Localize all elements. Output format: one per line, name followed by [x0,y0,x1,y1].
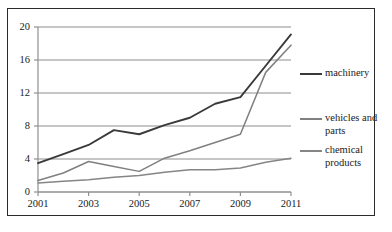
x-axis-ticks [38,192,291,196]
legend-label: chemical products [325,144,392,169]
x-tick-label: 2003 [69,198,109,209]
x-tick-label: 2007 [170,198,210,209]
chart-border: 048121620 200120032005200720092011 machi… [7,8,375,216]
legend-swatch-line [300,118,322,120]
series-line-vehicles-and-parts [38,45,291,180]
y-tick-label: 20 [8,21,30,32]
y-tick-label: 16 [8,54,30,65]
x-tick-label: 2005 [119,198,159,209]
chart-figure: 048121620 200120032005200720092011 machi… [0,0,392,232]
data-series-group [38,34,291,183]
legend-swatch-line [300,73,322,75]
x-tick-label: 2009 [220,198,260,209]
y-tick-label: 4 [8,153,30,164]
legend-label: machinery [325,67,392,80]
x-tick-label: 2001 [18,198,58,209]
legend-swatch-line [300,150,322,152]
legend-label: vehicles and parts [325,112,392,137]
y-tick-label: 8 [8,120,30,131]
line-chart-plot [8,9,373,214]
series-line-machinery [38,34,291,163]
x-tick-label: 2011 [271,198,311,209]
series-line-chemical-products [38,158,291,183]
y-tick-label: 12 [8,87,30,98]
y-tick-label: 0 [8,186,30,197]
